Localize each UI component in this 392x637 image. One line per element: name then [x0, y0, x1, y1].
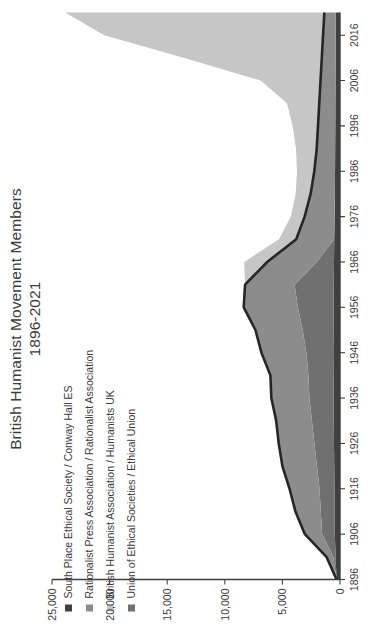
y-tick-label: 25,000 — [46, 588, 58, 620]
y-tick-label: 5,000 — [276, 588, 288, 614]
x-tick-label: 1976 — [348, 204, 360, 228]
x-tick-label: 1936 — [348, 386, 360, 410]
chart-page: British Humanist Movement Members 1896-2… — [0, 0, 392, 637]
y-tick-label: 10,000 — [219, 588, 231, 620]
x-tick-label: 1966 — [348, 250, 360, 274]
x-tick-label: 1926 — [348, 431, 360, 455]
x-tick-label: 1946 — [348, 340, 360, 364]
y-tick-label: 0 — [334, 588, 346, 594]
rotated-figure: British Humanist Movement Members 1896-2… — [0, 0, 392, 637]
y-tick-label: 20,000 — [104, 588, 116, 620]
chart-svg: 1896190619161926193619461956196619761986… — [0, 0, 392, 637]
x-tick-label: 1916 — [348, 476, 360, 500]
x-tick-label: 1896 — [348, 567, 360, 591]
x-tick-label: 2006 — [348, 68, 360, 92]
x-tick-label: 1956 — [348, 295, 360, 319]
x-tick-label: 1996 — [348, 114, 360, 138]
y-tick-label: 15,000 — [161, 588, 173, 620]
chart-plot-area: 1896190619161926193619461956196619761986… — [0, 0, 392, 637]
x-tick-label: 1986 — [348, 159, 360, 183]
x-tick-label: 2016 — [348, 23, 360, 47]
x-tick-label: 1906 — [348, 522, 360, 546]
